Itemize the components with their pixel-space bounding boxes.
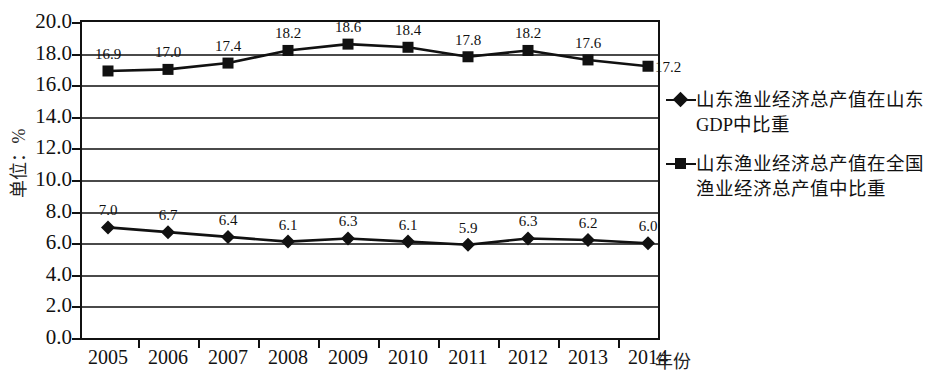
legend-label-line1: 山东渔业经济总产值在全国 [696,152,941,177]
x-axis-tick-label: 2012 [496,346,560,368]
data-point-square-marker [163,64,174,75]
data-point-diamond-marker [101,220,115,234]
x-axis-tick-label: 2005 [76,346,140,368]
x-axis-title: 年份 [655,347,691,370]
data-point-diamond-marker [281,235,295,249]
y-axis-tick-label: 12.0 [14,137,72,158]
y-axis-tick-mark [72,180,80,182]
y-axis-tick-mark [72,85,80,87]
data-point-diamond-marker [521,231,535,245]
x-axis-tick-label: 2009 [316,346,380,368]
y-axis-tick-label: 16.0 [14,74,72,95]
y-axis-tick-label: 8.0 [14,201,72,222]
legend-label-line2: 渔业经济总产值中比重 [696,177,941,202]
series-line [108,44,648,71]
x-axis-tick-label: 2006 [136,346,200,368]
legend-square-marker-icon [666,153,696,175]
x-axis-tick-label: 2010 [376,346,440,368]
plot-area: 7.06.76.46.16.36.15.96.36.26.016.917.017… [80,20,660,340]
x-axis-tick-label: 2008 [256,346,320,368]
y-axis-tick-mark [72,243,80,245]
data-point-square-marker [103,65,114,76]
data-point-square-marker [643,61,654,72]
data-point-diamond-marker [341,231,355,245]
data-point-square-marker [583,54,594,65]
y-axis-tick-label: 6.0 [14,232,72,253]
data-point-diamond-marker [401,235,415,249]
y-axis-tick-label: 20.0 [14,11,72,32]
data-point-square-marker [523,45,534,56]
y-axis-tick-mark [72,306,80,308]
data-label: 17.6 [575,36,601,51]
data-point-diamond-marker [581,233,595,247]
data-label: 6.4 [219,213,238,228]
y-axis-tick-mark [72,275,80,277]
data-point-square-marker [343,39,354,50]
y-axis-tick-mark [72,117,80,119]
y-axis-tick-label: 14.0 [14,106,72,127]
data-point-diamond-marker [461,238,475,252]
legend-diamond-marker-icon [666,89,696,111]
x-axis-tick-label: 2011 [436,346,500,368]
legend-label-line2: GDP中比重 [696,113,941,138]
data-point-square-marker [283,45,294,56]
series-lines [82,22,658,338]
data-label: 17.2 [655,60,681,75]
data-label: 6.3 [519,214,538,229]
legend-entry[interactable]: 山东渔业经济总产值在全国渔业经济总产值中比重 [666,152,941,202]
y-axis-tick-label: 10.0 [14,169,72,190]
data-label: 6.1 [279,218,298,233]
y-axis-tick-label: 4.0 [14,264,72,285]
data-label: 17.4 [215,39,241,54]
data-point-square-marker [403,42,414,53]
plot-inner: 7.06.76.46.16.36.15.96.36.26.016.917.017… [82,22,658,338]
y-axis-tick-label: 18.0 [14,43,72,64]
x-axis-tick-label: 2007 [196,346,260,368]
data-point-square-marker [463,51,474,62]
data-label: 17.8 [455,33,481,48]
data-label: 18.6 [335,20,361,35]
legend-entry[interactable]: 山东渔业经济总产值在山东GDP中比重 [666,88,941,138]
y-axis-tick-mark [72,54,80,56]
legend-label: 山东渔业经济总产值在全国渔业经济总产值中比重 [696,152,941,202]
data-label: 6.0 [639,219,658,234]
y-axis-tick-mark [72,212,80,214]
data-label: 17.0 [155,45,181,60]
x-axis-tick-label: 2013 [556,346,620,368]
data-point-diamond-marker [161,225,175,239]
data-label: 6.2 [579,216,598,231]
legend-label: 山东渔业经济总产值在山东GDP中比重 [696,88,941,138]
data-label: 18.4 [395,23,421,38]
y-axis-tick-mark [72,148,80,150]
data-point-diamond-marker [641,236,655,250]
y-axis-tick-mark [72,338,80,340]
data-label: 18.2 [275,26,301,41]
data-label: 18.2 [515,26,541,41]
data-label: 6.3 [339,214,358,229]
series-line [108,227,648,244]
data-label: 5.9 [459,221,478,236]
chart-legend: 山东渔业经济总产值在山东GDP中比重山东渔业经济总产值在全国渔业经济总产值中比重 [666,88,941,216]
legend-label-line1: 山东渔业经济总产值在山东 [696,88,941,113]
y-axis-tick-mark [72,22,80,24]
data-label: 7.0 [99,203,118,218]
line-chart: 单位：% 20.018.016.014.012.010.08.06.04.02.… [0,0,945,370]
y-axis-tick-label: 0.0 [14,327,72,348]
y-axis-tick-labels: 20.018.016.014.012.010.08.06.04.02.00.0 [14,0,72,370]
data-point-diamond-marker [221,230,235,244]
data-label: 6.1 [399,218,418,233]
y-axis-tick-label: 2.0 [14,295,72,316]
data-point-square-marker [223,58,234,69]
data-label: 6.7 [159,208,178,223]
data-label: 16.9 [95,47,121,62]
